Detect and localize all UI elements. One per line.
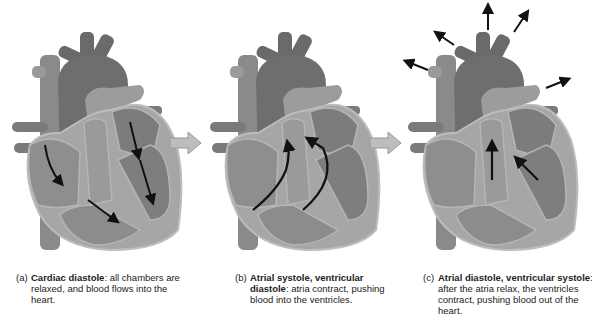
caption-label: (b)	[235, 272, 247, 283]
panel-ventricular-systole	[396, 0, 596, 260]
caption-label: (a)	[16, 272, 28, 283]
caption-title: Cardiac diastole	[31, 272, 104, 283]
heart-illustration-c	[396, 0, 596, 260]
caption-title: Atrial diastole, ventricular systole	[438, 272, 590, 283]
caption-label: (c)	[423, 272, 434, 283]
